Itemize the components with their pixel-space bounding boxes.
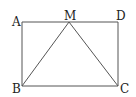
segment-MC [69,22,118,86]
rectangle-diagram: A M D B C [0,0,136,97]
label-B: B [12,82,21,96]
segment-MB [22,22,69,86]
label-A: A [11,15,21,29]
label-M: M [64,9,76,23]
label-C: C [120,82,129,96]
label-D: D [116,9,126,23]
